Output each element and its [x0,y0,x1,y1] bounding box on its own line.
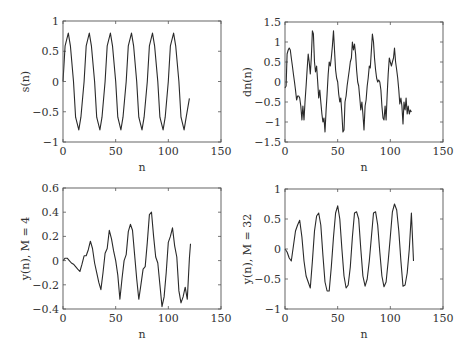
y-tick-label: 0 [52,76,59,89]
y-tick-label: 0.5 [264,213,282,226]
x-tick-label: 50 [109,312,123,325]
x-tick-label: 100 [158,312,179,325]
y-axis-label: s(n) [19,71,32,92]
y-axis-label: dn(n) [241,67,254,97]
x-tick-label: 150 [211,312,232,325]
y-tick-label: −0.2 [32,279,59,292]
x-tick-label: 0 [60,312,67,325]
y-tick-label: 0.5 [264,56,282,69]
y-tick-label: 0 [274,76,281,89]
y-tick-label: −0.5 [254,96,281,109]
figure-canvas: 050100150−1−0.500.51 n s(n) 050100150−1.… [0,0,474,349]
y-tick-label: −1 [43,136,59,149]
y-tick-label: 1 [274,36,281,49]
x-tick-label: 50 [109,145,123,158]
y-tick-label: −0.5 [32,106,59,119]
y-tick-label: 0.5 [42,45,60,58]
y-tick-label: 0 [52,255,59,268]
y-axis-label: y(n), M = 32 [241,214,254,285]
y-tick-label: 0 [274,243,281,256]
x-tick-label: 0 [282,145,289,158]
x-tick-label: 150 [433,312,454,325]
y-tick-label: 0.2 [42,230,60,243]
y-tick-label: −1.5 [254,136,281,149]
y-tick-label: 1 [274,183,281,196]
x-tick-label: 0 [282,312,289,325]
x-axis-label: n [360,328,367,341]
x-tick-label: 100 [380,312,401,325]
y-axis-label: y(n), M = 4 [19,217,32,281]
y-tick-label: −0.4 [32,303,59,316]
y-tick-label: −1 [265,303,281,316]
x-tick-label: 150 [211,145,232,158]
x-axis-label: n [138,328,145,341]
x-tick-label: 50 [331,312,345,325]
x-tick-label: 100 [380,145,401,158]
y-tick-label: 0.4 [42,206,60,219]
x-tick-label: 150 [433,145,454,158]
x-tick-label: 0 [60,145,67,158]
x-tick-label: 100 [158,145,179,158]
y-tick-label: 0.6 [42,182,60,195]
x-axis-label: n [138,161,145,174]
y-tick-label: −0.5 [254,273,281,286]
y-tick-label: 1 [52,15,59,28]
x-axis-label: n [360,161,367,174]
x-tick-label: 50 [331,145,345,158]
y-tick-label: −1 [265,116,281,129]
y-tick-label: 1.5 [264,16,282,29]
